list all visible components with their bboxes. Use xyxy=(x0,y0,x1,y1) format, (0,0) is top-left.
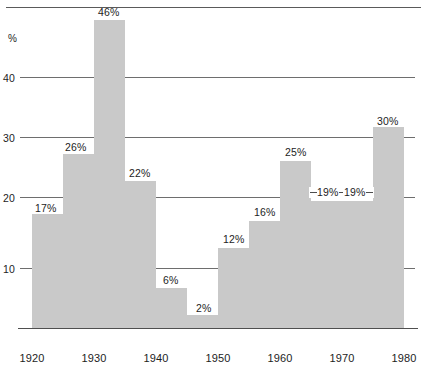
cropped-text-artifact xyxy=(118,0,158,6)
value-label-1970-text: 19% xyxy=(344,186,366,198)
x-tick-label-1970: 1970 xyxy=(330,352,355,364)
bar-1920 xyxy=(32,214,63,328)
gridline-40-right-tick xyxy=(404,77,415,78)
x-axis-labels: 1920 1930 1940 1950 1960 1970 1980 xyxy=(32,352,404,366)
value-label-1975: 30% xyxy=(377,116,399,127)
value-label-1950: 12% xyxy=(223,234,245,245)
bar-1975 xyxy=(373,127,404,328)
value-label-1965: 19% xyxy=(309,187,347,198)
x-tick-label-1980: 1980 xyxy=(392,352,417,364)
gridline-30-stub xyxy=(20,137,32,138)
x-tick-label-1930: 1930 xyxy=(82,352,107,364)
bar-1965 xyxy=(311,201,342,328)
bar-1935 xyxy=(125,181,156,328)
bar-1960 xyxy=(280,161,311,328)
x-tick-label-1950: 1950 xyxy=(206,352,231,364)
leader-dash-left-1965 xyxy=(310,192,317,193)
value-label-1925: 26% xyxy=(65,142,87,153)
chart-plot-area: 40 30 20 10 17% 26% 46% 22% 6% 2% 12% 16… xyxy=(32,20,404,328)
top-horizontal-rule xyxy=(6,7,421,8)
y-axis-unit-label: % xyxy=(8,33,17,44)
gridline-10-right-tick xyxy=(404,268,415,269)
value-label-1955: 16% xyxy=(254,207,276,218)
x-tick-label-1960: 1960 xyxy=(268,352,293,364)
gridline-20-stub xyxy=(20,197,32,198)
bar-1970 xyxy=(342,201,373,328)
gridline-10-segment xyxy=(156,268,218,269)
bar-1950 xyxy=(218,248,249,328)
bar-1930 xyxy=(94,20,125,328)
value-label-1965-text: 19% xyxy=(317,186,339,198)
gridline-20-right-tick xyxy=(404,197,415,198)
gridline-40-stub xyxy=(20,77,32,78)
gridline-30: 30 xyxy=(32,137,404,138)
y-tick-label-10: 10 xyxy=(3,263,15,275)
y-tick-label-40: 40 xyxy=(3,72,15,84)
bar-1940 xyxy=(156,288,187,328)
gridline-10-stub xyxy=(20,268,32,269)
bar-1925 xyxy=(63,154,94,328)
y-tick-label-20: 20 xyxy=(3,192,15,204)
value-label-1970: 19% xyxy=(343,187,374,198)
y-tick-label-30: 30 xyxy=(3,132,15,144)
x-tick-label-1940: 1940 xyxy=(144,352,169,364)
value-label-1935: 22% xyxy=(129,168,151,179)
x-axis-baseline xyxy=(18,328,418,329)
bar-1955 xyxy=(249,221,280,328)
gridline-40: 40 xyxy=(32,77,404,78)
value-label-1920: 17% xyxy=(35,203,57,214)
value-label-1940: 6% xyxy=(163,275,179,286)
value-label-1960: 25% xyxy=(285,147,307,158)
value-label-1930: 46% xyxy=(98,7,120,18)
leader-dash-right-1970 xyxy=(366,192,373,193)
bar-1945 xyxy=(187,315,218,328)
gridline-30-right-tick xyxy=(404,137,415,138)
value-label-1945: 2% xyxy=(196,303,212,314)
x-tick-label-1920: 1920 xyxy=(20,352,45,364)
